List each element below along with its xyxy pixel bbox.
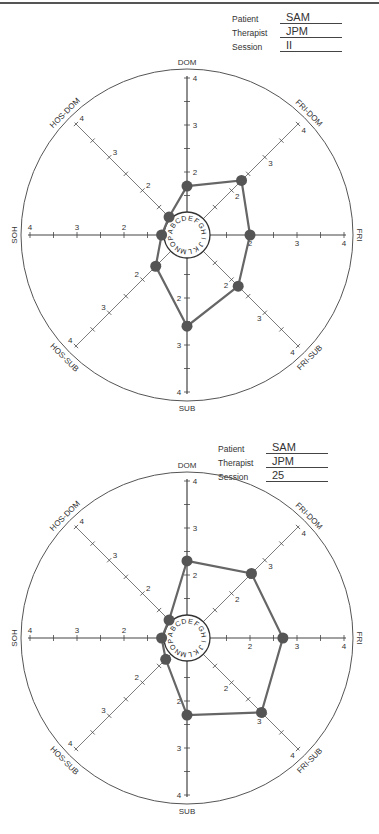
tick-label: 3	[295, 642, 300, 651]
radar-chart-session-1: 234DOM234FRI-DOM234FRI234FRI-SUB234SUB23…	[0, 0, 379, 420]
tick-label: 3	[257, 314, 262, 323]
radar-chart-session-2: 234DOM234FRI-DOM234FRI234FRI-SUB234SUB23…	[0, 414, 379, 834]
data-point-dom	[182, 181, 193, 192]
data-point-soh	[156, 633, 167, 644]
tick-label: 2	[193, 571, 198, 580]
axis-line	[203, 123, 299, 219]
axis-label-fri: FRI	[355, 229, 364, 242]
tick-label: 3	[268, 159, 273, 168]
tick-label: 2	[248, 642, 253, 651]
tick-label: 4	[79, 114, 84, 123]
data-point-sub	[182, 321, 193, 332]
tick-label: 3	[113, 551, 118, 560]
tick-label: 2	[177, 294, 182, 303]
tick-label: 3	[101, 706, 106, 715]
data-point-dom	[182, 555, 193, 566]
tick-label: 4	[290, 348, 295, 357]
tick-label: 2	[146, 181, 151, 190]
data-point-hos-dom	[164, 615, 175, 626]
tick-label: 3	[101, 303, 106, 312]
tick-label: 3	[295, 239, 300, 248]
tick-label: 2	[135, 673, 140, 682]
data-point-fri-dom	[246, 568, 257, 579]
tick-label: 2	[224, 281, 229, 290]
tick-label: 2	[193, 168, 198, 177]
tick-label: 4	[68, 336, 73, 345]
tick-label: 2	[235, 192, 240, 201]
tick-label: 3	[257, 717, 262, 726]
tick-label: 4	[68, 739, 73, 748]
tick-label: 3	[268, 562, 273, 571]
axis-line	[203, 251, 299, 347]
tick-label: 3	[193, 121, 198, 130]
axis-line	[75, 526, 171, 622]
data-point-sub	[182, 710, 193, 721]
tick-label: 3	[75, 223, 80, 232]
axis-label-sub: SUB	[179, 404, 195, 413]
tick-label: 4	[301, 126, 306, 135]
axis-line	[75, 654, 171, 750]
axis-label-dom: DOM	[178, 58, 197, 67]
tick-label: 3	[75, 626, 80, 635]
data-point-fri	[245, 230, 256, 241]
tick-label: 4	[193, 477, 198, 486]
tick-label: 4	[28, 223, 33, 232]
tick-label: 4	[79, 517, 84, 526]
data-point-fri-sub	[256, 707, 267, 718]
data-point-soh	[156, 230, 167, 241]
tick-label: 3	[193, 524, 198, 533]
tick-label: 3	[113, 148, 118, 157]
tick-label: 4	[28, 626, 33, 635]
tick-label: 3	[177, 341, 182, 350]
data-point-fri-dom	[236, 175, 247, 186]
tick-label: 4	[290, 751, 295, 760]
axis-label-sub: SUB	[179, 807, 195, 816]
data-point-hos-sub	[160, 654, 171, 665]
tick-label: 2	[235, 595, 240, 604]
tick-label: 4	[342, 642, 347, 651]
tick-label: 2	[146, 584, 151, 593]
axis-line	[203, 654, 299, 750]
data-point-hos-sub	[150, 261, 161, 272]
tick-label: 4	[177, 791, 182, 800]
tick-label: 4	[301, 529, 306, 538]
axis-label-soh: SOH	[10, 226, 19, 244]
axis-label-soh: SOH	[10, 629, 19, 647]
axis-line	[75, 123, 171, 219]
axis-label-dom: DOM	[178, 461, 197, 470]
tick-label: 4	[193, 74, 198, 83]
profile-polygon	[156, 180, 250, 326]
tick-label: 2	[224, 684, 229, 693]
data-point-fri-sub	[233, 281, 244, 292]
tick-label: 4	[342, 239, 347, 248]
tick-label: 2	[122, 626, 127, 635]
tick-label: 2	[135, 270, 140, 279]
tick-label: 4	[177, 388, 182, 397]
data-point-hos-dom	[164, 212, 175, 223]
tick-label: 3	[177, 744, 182, 753]
tick-label: 2	[122, 223, 127, 232]
axis-label-fri: FRI	[355, 632, 364, 645]
data-point-fri	[277, 633, 288, 644]
